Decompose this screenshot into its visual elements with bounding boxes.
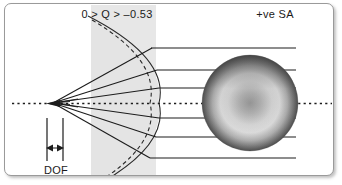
spherical-aberration-label: +ve SA [240, 8, 310, 20]
conic-constant-label: 0 > Q > –0.53 [62, 8, 172, 20]
dof-markers [47, 118, 63, 161]
focus-point [46, 100, 60, 107]
diagram-canvas [0, 0, 342, 185]
optical-diagram-figure: 0 > Q > –0.53 +ve SA DOF [0, 0, 342, 185]
dof-label: DOF [30, 164, 82, 176]
sphere-graphic [202, 55, 298, 151]
